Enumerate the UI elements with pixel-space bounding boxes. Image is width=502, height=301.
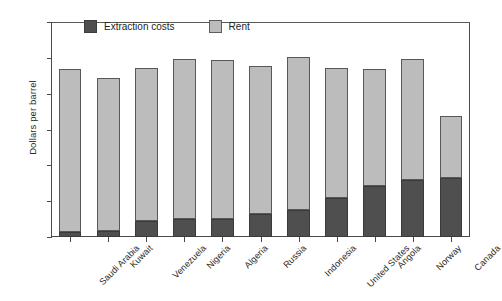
x-axis-tick-mark [337, 237, 338, 242]
bar-segment-rent[interactable] [135, 68, 158, 221]
bar-segment-rent[interactable] [325, 68, 348, 198]
bar-stack [211, 61, 234, 237]
bar-segment-extraction-costs[interactable] [211, 219, 234, 237]
x-axis-tick-mark [70, 237, 71, 242]
x-axis-tick-mark [413, 237, 414, 242]
bar-stack [97, 79, 120, 237]
legend-label-extraction-costs: Extraction costs [104, 21, 175, 32]
bar-segment-rent[interactable] [287, 57, 310, 210]
bar-group[interactable] [325, 22, 348, 237]
x-axis-label: Venezuela [171, 243, 208, 280]
x-axis-tick-mark [222, 237, 223, 242]
bar-stack [135, 69, 158, 237]
bars-layer [51, 22, 470, 237]
x-axis-tick-mark [146, 237, 147, 242]
legend-item-rent: Rent [209, 20, 250, 33]
bar-segment-rent[interactable] [440, 116, 463, 178]
bar-segment-extraction-costs[interactable] [249, 214, 272, 237]
bar-group[interactable] [440, 22, 463, 237]
bar-segment-extraction-costs[interactable] [173, 219, 196, 237]
bar-stack [287, 58, 310, 237]
bar-stack [249, 67, 272, 237]
bar-segment-rent[interactable] [173, 59, 196, 219]
x-axis-label: Russia [281, 243, 308, 270]
bar-stack [59, 70, 82, 237]
bar-segment-rent[interactable] [97, 78, 120, 230]
bar-group[interactable] [363, 22, 386, 237]
bar-group[interactable] [287, 22, 310, 237]
legend-label-rent: Rent [229, 21, 250, 32]
x-axis-label: Canada [472, 243, 502, 273]
x-axis-label: Algeria [243, 243, 270, 270]
bar-stack [173, 60, 196, 237]
bar-group[interactable] [249, 22, 272, 237]
x-axis-tick-mark [299, 237, 300, 242]
bar-segment-rent[interactable] [211, 60, 234, 219]
bar-group[interactable] [401, 22, 424, 237]
x-axis-tick-mark [184, 237, 185, 242]
legend-item-extraction-costs: Extraction costs [84, 20, 175, 33]
y-axis-title: Dollars per barrel [27, 43, 38, 193]
x-axis-tick-mark [108, 237, 109, 242]
x-axis-label: Norway [434, 243, 463, 272]
bar-segment-extraction-costs[interactable] [440, 178, 463, 237]
bar-segment-rent[interactable] [401, 59, 424, 180]
x-axis-tick-mark [261, 237, 262, 242]
bar-segment-extraction-costs[interactable] [363, 186, 386, 237]
bar-segment-extraction-costs[interactable] [135, 221, 158, 237]
x-axis-tick-mark [375, 237, 376, 242]
bar-stack [325, 69, 348, 237]
bar-segment-extraction-costs[interactable] [401, 180, 424, 237]
bar-segment-extraction-costs[interactable] [325, 198, 348, 237]
bar-group[interactable] [173, 22, 196, 237]
bar-stack [363, 70, 386, 237]
bar-segment-rent[interactable] [59, 69, 82, 231]
dark-square-swatch-icon [84, 20, 97, 33]
bar-stack [440, 117, 463, 237]
bar-segment-rent[interactable] [363, 69, 386, 186]
chart-legend: Extraction costs Rent [84, 20, 250, 33]
x-axis-label: Indonesia [322, 243, 357, 278]
bar-group[interactable] [97, 22, 120, 237]
light-square-swatch-icon [209, 20, 222, 33]
bar-group[interactable] [135, 22, 158, 237]
x-axis-tick-mark [451, 237, 452, 242]
bar-stack [401, 60, 424, 237]
bar-segment-rent[interactable] [249, 66, 272, 214]
bar-segment-extraction-costs[interactable] [287, 210, 310, 237]
x-axis-label: Nigeria [205, 243, 233, 271]
x-axis-labels: Saudi ArabiaKuwaitVenezuelaNigeriaAlgeri… [51, 243, 470, 301]
bar-group[interactable] [211, 22, 234, 237]
bar-group[interactable] [59, 22, 82, 237]
